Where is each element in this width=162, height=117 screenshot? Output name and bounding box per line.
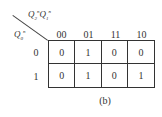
row-var-q0-sup: n — [23, 29, 26, 34]
col-var-q1-sup: n — [49, 9, 52, 14]
row-variable-label: Q0n — [14, 30, 26, 39]
kmap-cell: 0 — [49, 64, 75, 87]
kmap-cell: 0 — [128, 41, 154, 64]
row-header: 0 — [30, 48, 42, 58]
kmap-cell: 0 — [102, 64, 128, 87]
kmap-cell: 1 — [75, 41, 101, 64]
kmap-cell: 1 — [75, 64, 101, 87]
row-header: 1 — [30, 72, 42, 82]
column-header: 00 — [48, 30, 75, 40]
figure-caption: (b) — [90, 95, 120, 106]
column-header: 01 — [75, 30, 102, 40]
column-variable-label: Q2nQ1n — [28, 10, 51, 19]
col-var-q2-sub: 2 — [35, 16, 38, 21]
column-header: 11 — [102, 30, 129, 40]
kmap-cell: 0 — [102, 41, 128, 64]
kmap-cell: 1 — [128, 64, 154, 87]
column-header: 10 — [128, 30, 155, 40]
row-var-q0-sub: 0 — [21, 36, 24, 41]
kmap-cell: 0 — [49, 41, 75, 64]
karnaugh-map-grid: 0 1 0 0 0 1 0 1 — [48, 40, 155, 88]
col-var-q1-sub: 1 — [46, 16, 49, 21]
